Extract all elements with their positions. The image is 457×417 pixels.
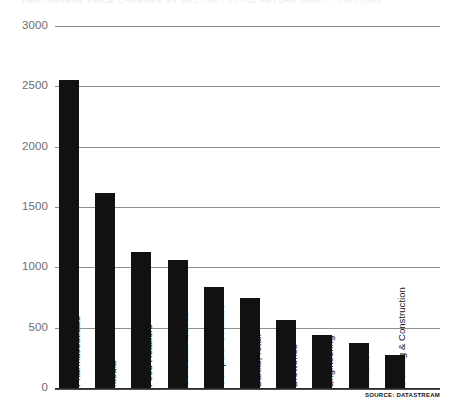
y-axis-tick-label: 1500 (0, 201, 48, 212)
bar-category-label: Consumer Goods (180, 312, 190, 387)
chart-container: PERCENTAGE PRICE CHANGES BY SECTOR · TOT… (0, 0, 457, 417)
bar-category-label: Food Retailers (144, 325, 154, 387)
source-note-text: SOURCE: DATASTREAM (365, 392, 440, 398)
y-axis-tick-label: 0 (0, 382, 48, 393)
bar (95, 193, 115, 388)
gridline (55, 147, 440, 148)
source-note: SOURCE: DATASTREAM (365, 392, 440, 398)
y-axis-tick-label: 500 (0, 322, 48, 333)
bar-category-label: Building & Construction (397, 287, 407, 387)
y-axis-tick-label: 1000 (0, 261, 48, 272)
bar-category-label: Engineering (325, 336, 335, 387)
gridline (55, 26, 440, 27)
bar-category-label: Breweries (289, 344, 299, 387)
bar-category-label: Textiles (361, 355, 371, 387)
y-axis-tick-label: 2000 (0, 141, 48, 152)
bar-category-label: Pharmaceuticals (72, 316, 82, 387)
plot-area: 050010001500200025003000PharmaceuticalsM… (0, 0, 457, 417)
y-axis-tick-label: 2500 (0, 80, 48, 91)
bar-category-label: Computer Software (216, 304, 226, 387)
bar-category-label: Banks, retail (253, 334, 263, 387)
bar-category-label: Media (108, 361, 118, 387)
y-axis-tick-label: 3000 (0, 20, 48, 31)
gridline (55, 86, 440, 87)
axis-baseline (55, 388, 440, 389)
